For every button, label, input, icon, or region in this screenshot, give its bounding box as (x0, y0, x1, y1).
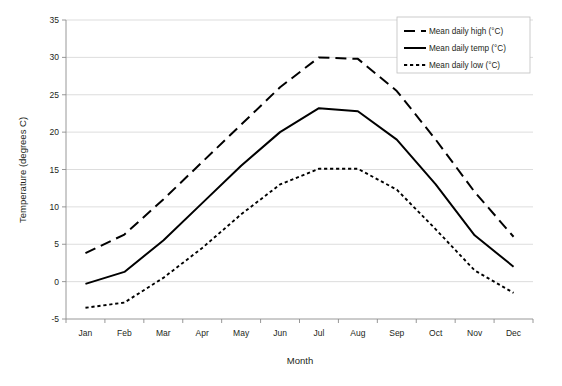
x-tick-label: Sep (389, 328, 404, 338)
x-tick-label: Jul (314, 328, 325, 338)
y-axis-title: Temperature (degrees C) (17, 117, 28, 223)
y-tick-label: 10 (50, 202, 60, 212)
x-tick-label: Apr (196, 328, 209, 338)
x-tick-label: Nov (467, 328, 483, 338)
legend-label-2: Mean daily low (°C) (429, 61, 500, 70)
temperature-line-chart: -505101520253035 JanFebMarAprMayJunJulAu… (0, 0, 562, 386)
legend-label-1: Mean daily temp (°C) (429, 44, 506, 53)
x-tick-label: May (233, 328, 250, 338)
y-tick-label: -5 (51, 314, 59, 324)
x-tick-label: Mar (156, 328, 171, 338)
x-tick-label: Oct (429, 328, 443, 338)
y-tick-label: 15 (50, 165, 60, 175)
chart-figure: -505101520253035 JanFebMarAprMayJunJulAu… (0, 0, 562, 386)
x-tick-label: Dec (506, 328, 522, 338)
x-tick-label: Feb (117, 328, 132, 338)
y-tick-label: 5 (54, 239, 59, 249)
x-axis-title: Month (287, 355, 313, 366)
y-tick-label: 35 (50, 15, 60, 25)
y-tick-label: 25 (50, 90, 60, 100)
x-tick-label: Aug (350, 328, 365, 338)
y-tick-label: 30 (50, 52, 60, 62)
y-tick-label: 20 (50, 127, 60, 137)
legend-label-0: Mean daily high (°C) (429, 27, 504, 36)
y-tick-label: 0 (54, 277, 59, 287)
x-tick-label: Jun (273, 328, 287, 338)
x-tick-label: Jan (79, 328, 93, 338)
legend: Mean daily high (°C)Mean daily temp (°C)… (397, 17, 530, 73)
